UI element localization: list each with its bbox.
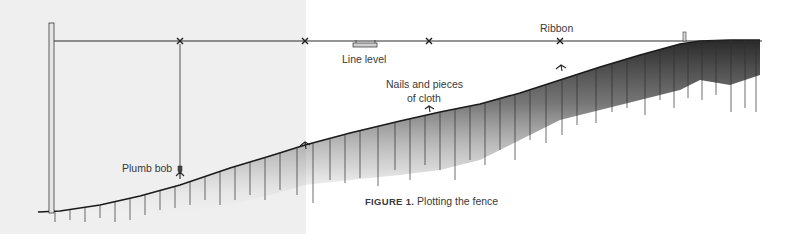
line-level-label: Line level — [342, 53, 386, 65]
figure-caption: FIGURE 1. Plotting the fence — [365, 195, 498, 207]
nail-cloth-icon — [425, 106, 434, 112]
figure-title: Plotting the fence — [414, 195, 498, 207]
plumb-bob-label: Plumb bob — [122, 162, 172, 174]
nail-cloth-icon — [556, 65, 566, 71]
nail-cloth-icon — [176, 172, 184, 179]
fence-post — [49, 23, 54, 213]
nails-label-line1: Nails and pieces — [386, 78, 463, 90]
figure-number: FIGURE 1. — [365, 196, 414, 207]
ribbon-label: Ribbon — [540, 22, 573, 34]
nails-label-line2: of cloth — [407, 92, 441, 104]
end-stake — [683, 32, 686, 41]
